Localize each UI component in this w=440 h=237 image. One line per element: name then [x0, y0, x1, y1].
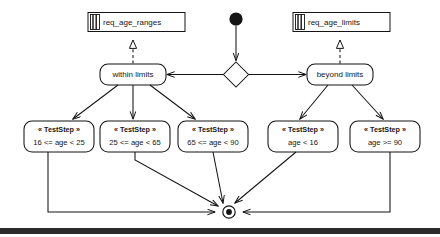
test-step-condition: age >= 90 — [368, 138, 402, 147]
test-step-stereotype: « TestStep » — [192, 125, 234, 134]
requirement-icon — [91, 15, 100, 30]
decision-diamond[interactable] — [224, 62, 249, 87]
test-step-condition: 65 <= age < 90 — [187, 138, 238, 147]
edge-step-over-90-to-final — [243, 152, 390, 212]
requirement-icon — [296, 15, 305, 30]
edge-step-under-16-to-final — [235, 152, 296, 203]
test-step-under-16[interactable]: « TestStep » age < 16 — [268, 121, 338, 152]
artifact-req-age-limits[interactable]: req_age_limits — [293, 13, 390, 32]
edge-beyond-limits-to-step-over-90 — [352, 85, 383, 119]
page-frame-bar — [0, 228, 440, 234]
test-step-stereotype: « TestStep » — [282, 125, 324, 134]
test-step-65-90[interactable]: « TestStep » 65 <= age < 90 — [178, 121, 248, 152]
test-step-stereotype: « TestStep » — [364, 125, 406, 134]
activity-final-node[interactable] — [223, 206, 235, 218]
action-within-limits[interactable]: within limits — [100, 64, 166, 85]
edge-step-16-25-to-final — [48, 152, 215, 212]
edge-beyond-limits-to-step-under-16 — [300, 85, 328, 119]
action-beyond-limits[interactable]: beyond limits — [307, 64, 373, 85]
artifact-req-age-ranges[interactable]: req_age_ranges — [88, 13, 185, 32]
artifact-label: req_age_limits — [308, 18, 360, 27]
artifact-label: req_age_ranges — [103, 18, 161, 27]
edge-step-65-90-to-final — [213, 152, 223, 203]
test-step-16-25[interactable]: « TestStep » 16 <= age < 25 — [24, 121, 94, 152]
test-step-condition: 25 <= age < 65 — [109, 138, 160, 147]
test-step-condition: age < 16 — [288, 138, 318, 147]
test-step-25-65[interactable]: « TestStep » 25 <= age < 65 — [100, 121, 170, 152]
action-label: beyond limits — [317, 70, 364, 79]
activity-diagram-canvas: req_age_ranges req_age_limits within lim… — [0, 0, 440, 237]
initial-node[interactable] — [229, 12, 242, 25]
test-step-condition: 16 <= age < 25 — [33, 138, 84, 147]
edge-within-limits-to-step-65-90 — [150, 85, 195, 119]
test-step-over-90[interactable]: « TestStep » age >= 90 — [350, 121, 420, 152]
edge-within-limits-to-step-16-25 — [73, 85, 118, 119]
action-label: within limits — [112, 70, 154, 79]
test-step-stereotype: « TestStep » — [114, 125, 156, 134]
edge-step-25-65-to-final — [135, 152, 218, 206]
test-step-stereotype: « TestStep » — [38, 125, 80, 134]
